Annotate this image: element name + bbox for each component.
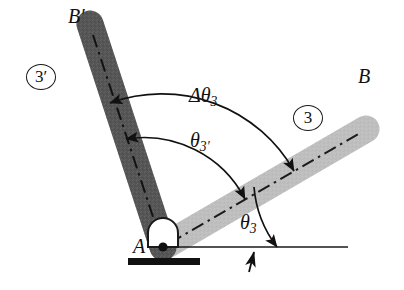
b-prime-mark: ′ [80, 5, 84, 27]
label-theta-3: θ3 [240, 212, 257, 236]
label-point-B: B [358, 66, 370, 86]
theta-3-prime-subscript: 3′ [200, 139, 210, 154]
delta-theta-subscript: 3 [211, 94, 218, 109]
label-theta-3-prime: θ3′ [190, 130, 210, 154]
label-point-B-prime: B′ [68, 6, 85, 26]
link-3-prime-centerline [92, 32, 161, 241]
label-pivot-A: A [133, 236, 145, 256]
link-number-3: 3 [293, 105, 323, 131]
label-delta-theta-3: Δθ3 [189, 85, 217, 109]
theta-3-subscript: 3 [250, 221, 257, 236]
link-number-3-prime: 3′ [26, 64, 56, 90]
mechanism-figure: B B′ A Δθ3 θ3′ θ3 3′ 3 [0, 0, 404, 290]
datum-tick-arrow [249, 252, 254, 272]
